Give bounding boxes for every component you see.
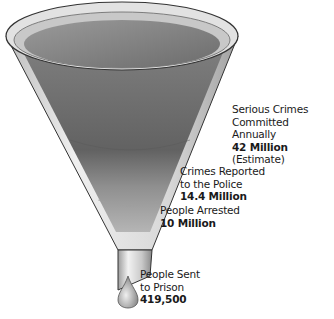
stage-value: 14.4 Million <box>180 190 265 203</box>
stage-label-crimes-reported: Crimes Reported to the Police 14.4 Milli… <box>180 165 265 203</box>
stage-label-serious-crimes: Serious Crimes Committed Annually 42 Mil… <box>232 103 334 166</box>
stage-value: 10 Million <box>160 217 240 230</box>
stage-text: to Prison <box>140 281 200 294</box>
stage-value: 419,500 <box>140 293 200 306</box>
figure-caption-cropped <box>6 312 176 319</box>
stage-text: to the Police <box>180 178 265 191</box>
stage-text: Committed Annually <box>232 116 334 141</box>
stage-value-line: 42 Million (Estimate) <box>232 141 334 166</box>
funnel-rim <box>6 2 238 70</box>
stage-note: (Estimate) <box>232 153 285 165</box>
stage-value: 42 Million <box>232 141 288 153</box>
stage-label-people-sent-to-prison: People Sent to Prison 419,500 <box>140 268 200 306</box>
stage-text: People Arrested <box>160 204 240 217</box>
stage-label-people-arrested: People Arrested 10 Million <box>160 204 240 229</box>
stage-text: Crimes Reported <box>180 165 265 178</box>
stage-text: People Sent <box>140 268 200 281</box>
stage-text: Serious Crimes <box>232 103 334 116</box>
